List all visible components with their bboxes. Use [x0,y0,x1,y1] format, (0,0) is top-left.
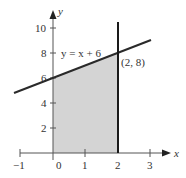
shaded-region [53,53,118,153]
x-axis-arrow-icon [162,150,171,157]
chart: x y −1 0 1 2 3 2 4 6 8 10 [0,0,186,178]
x-tick-label: 2 [115,159,121,171]
y-tick-label: 2 [41,122,47,134]
y-axis-label: y [57,5,63,17]
line-equation-label: y = x + 6 [61,47,101,59]
x-tick-label: 1 [82,159,88,171]
intersection-point-label: (2, 8) [121,56,145,69]
x-axis-label: x [173,147,179,159]
x-tick-label: 3 [147,159,153,171]
y-tick-label: 10 [35,22,47,34]
y-axis-arrow-icon [50,10,57,19]
y-tick-label: 4 [41,97,47,109]
x-tick-label: −1 [13,159,25,171]
y-tick-label: 8 [41,47,47,59]
x-tick-label: 0 [56,159,62,171]
